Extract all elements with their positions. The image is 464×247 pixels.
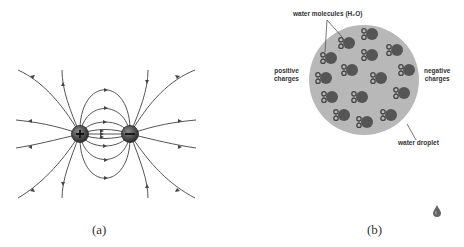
label-negative-charges: negative charges — [424, 67, 450, 83]
water-droplet-diagram — [240, 0, 464, 247]
dipole-field-diagram — [0, 0, 240, 247]
label-water-molecules: water molecules (H₂O) — [293, 10, 362, 17]
water-droplet-svg — [240, 0, 464, 247]
caption-b: (b) — [367, 222, 382, 238]
positive-charge — [72, 126, 89, 143]
dipole-field-svg — [0, 0, 240, 247]
water-drop-icon — [432, 205, 442, 217]
label-positive-charges: positive charges — [274, 67, 299, 83]
label-water-droplet: water droplet — [398, 139, 439, 146]
negative-charge — [122, 126, 139, 143]
caption-a: (a) — [92, 222, 106, 238]
